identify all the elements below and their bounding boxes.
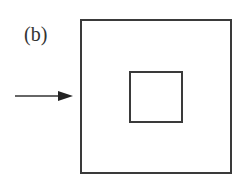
inner-square xyxy=(129,71,183,123)
figure-label: (b) xyxy=(24,24,47,44)
arrow-right-icon xyxy=(0,86,80,106)
